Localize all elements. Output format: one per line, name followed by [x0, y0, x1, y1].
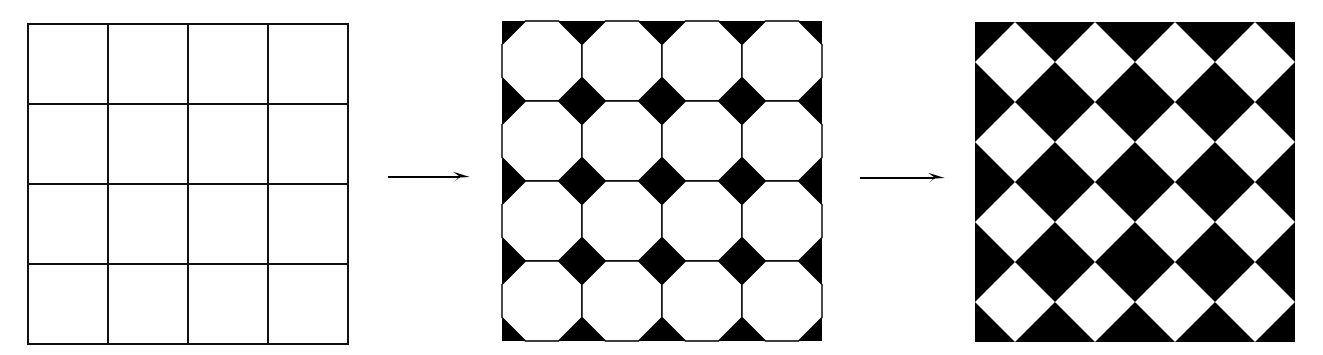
tile-cell — [502, 101, 582, 181]
panel-diamond-tiling — [975, 22, 1295, 342]
octagon-tile — [582, 101, 662, 181]
octagon-tile — [662, 101, 742, 181]
octagon-tiling-canvas — [500, 19, 824, 343]
tile-cell — [742, 21, 822, 101]
figure-root — [0, 0, 1323, 355]
tile-cell — [742, 261, 822, 341]
tile-cell — [582, 101, 662, 181]
octagon-tile — [502, 101, 582, 181]
octagon-tile — [662, 21, 742, 101]
tile-cell — [662, 21, 742, 101]
tile-cell — [502, 21, 582, 101]
octagon-tile — [742, 101, 822, 181]
octagon-tile — [742, 181, 822, 261]
octagon-tile — [582, 21, 662, 101]
transform-arrow-1-canvas — [388, 165, 470, 189]
tile-cell — [662, 181, 742, 261]
transform-arrow-1 — [388, 165, 470, 189]
square-grid-canvas — [26, 22, 350, 346]
octagon-tile — [662, 181, 742, 261]
octagon-tile — [582, 261, 662, 341]
tile-cell — [742, 101, 822, 181]
tile-cell — [662, 261, 742, 341]
octagon-tile — [742, 261, 822, 341]
tile-cell — [582, 21, 662, 101]
octagon-tile — [502, 261, 582, 341]
transform-arrow-2-canvas — [860, 166, 945, 190]
octagon-tile — [662, 261, 742, 341]
octagon-tile — [502, 181, 582, 261]
panel-octagon-tiling — [502, 21, 822, 341]
tile-cell — [502, 261, 582, 341]
tile-cell — [582, 261, 662, 341]
tile-cell — [742, 181, 822, 261]
diamond-tiling-canvas — [973, 20, 1297, 344]
panel-square-grid — [28, 24, 348, 344]
tile-cell — [662, 101, 742, 181]
tile-cell — [582, 181, 662, 261]
octagon-tile — [502, 21, 582, 101]
tile-cell — [502, 181, 582, 261]
transform-arrow-2 — [860, 166, 945, 190]
octagon-tile — [582, 181, 662, 261]
octagon-tile — [742, 21, 822, 101]
